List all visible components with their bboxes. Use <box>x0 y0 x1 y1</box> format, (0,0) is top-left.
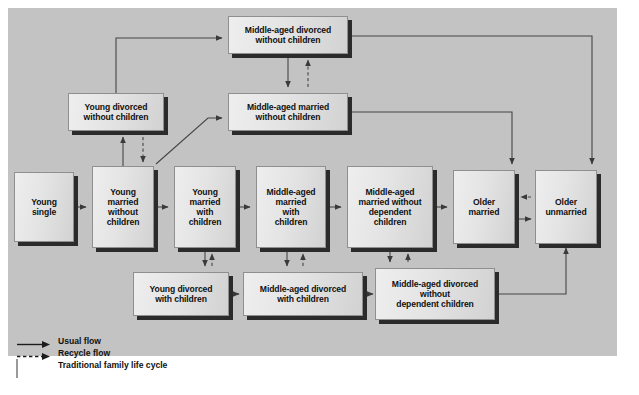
figure-caption <box>340 379 639 393</box>
solid-arrow-icon <box>16 336 54 347</box>
legend: Usual flow Recycle flow Traditional fami… <box>16 336 167 372</box>
legend-label: Recycle flow <box>58 348 110 359</box>
node-young-single[interactable]: Youngsingle <box>14 172 74 242</box>
node-label: Oldermarried <box>467 196 502 218</box>
legend-item-traditional-cycle: Traditional family life cycle <box>16 360 167 371</box>
node-middle-aged-divorced-without-children[interactable]: Middle-aged divorcedwithout children <box>228 16 348 54</box>
legend-item-usual-flow: Usual flow <box>16 336 167 347</box>
node-young-married-with-children[interactable]: Youngmarriedwithchildren <box>174 166 236 248</box>
node-middle-aged-married-without-dependent-children[interactable]: Middle-agedmarried withoutdependentchild… <box>347 166 433 248</box>
legend-label: Traditional family life cycle <box>58 360 167 371</box>
node-label: Young divorcedwithout children <box>82 101 151 123</box>
legend-item-recycle-flow: Recycle flow <box>16 348 167 359</box>
node-middle-aged-married-without-children[interactable]: Middle-aged marriedwithout children <box>228 93 348 131</box>
usual-flow-lines <box>74 36 592 294</box>
node-label: Middle-agedmarried withoutdependentchild… <box>357 186 424 229</box>
node-young-married-without-children[interactable]: Youngmarriedwithoutchildren <box>92 166 154 248</box>
node-older-married[interactable]: Oldermarried <box>453 170 515 244</box>
node-older-unmarried[interactable]: Olderunmarried <box>535 170 597 244</box>
node-young-divorced-with-children[interactable]: Young divorcedwith children <box>133 272 229 316</box>
node-middle-aged-divorced-with-children[interactable]: Middle-aged divorcedwith children <box>243 272 363 316</box>
legend-label: Usual flow <box>58 336 101 347</box>
dashed-arrow-icon <box>16 348 54 359</box>
node-label: Olderunmarried <box>543 196 588 218</box>
node-label: Middle-agedmarriedwithchildren <box>264 186 317 229</box>
node-label: Middle-aged divorcedwith children <box>258 283 348 305</box>
node-label: Middle-aged divorcedwithoutdependent chi… <box>390 278 480 311</box>
node-label: Youngmarriedwithoutchildren <box>105 186 142 229</box>
node-middle-aged-divorced-without-dependent-children[interactable]: Middle-aged divorcedwithoutdependent chi… <box>375 268 495 320</box>
box-swatch-icon <box>16 360 54 371</box>
node-label: Middle-aged divorcedwithout children <box>243 24 333 46</box>
node-label: Youngsingle <box>29 196 59 218</box>
diagram-stage: Youngsingle Youngmarriedwithoutchildren … <box>0 0 639 395</box>
node-label: Youngmarriedwithchildren <box>187 186 224 229</box>
node-young-divorced-without-children[interactable]: Young divorcedwithout children <box>68 93 164 131</box>
node-label: Young divorcedwith children <box>148 283 215 305</box>
node-middle-aged-married-with-children[interactable]: Middle-agedmarriedwithchildren <box>256 166 326 248</box>
node-label: Middle-aged marriedwithout children <box>245 101 331 123</box>
